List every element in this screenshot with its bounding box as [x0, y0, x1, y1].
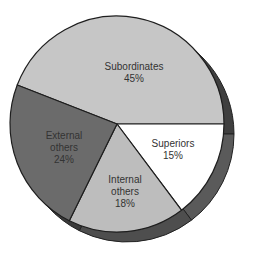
pie-label-line: External: [46, 130, 83, 141]
pie-label-line: Internal: [108, 174, 141, 185]
pie-label-line: Superiors: [152, 138, 195, 149]
pie-label-line: others: [111, 186, 139, 197]
pie-label-line: 45%: [124, 73, 144, 84]
pie-label-line: others: [50, 142, 78, 153]
pie-label-line: 15%: [163, 150, 183, 161]
pie-label-line: 24%: [54, 154, 74, 165]
pie-label-line: Subordinates: [105, 61, 164, 72]
pie-chart: Subordinates45%Superiors15%Internalother…: [0, 0, 255, 259]
pie-label-line: 18%: [115, 198, 135, 209]
